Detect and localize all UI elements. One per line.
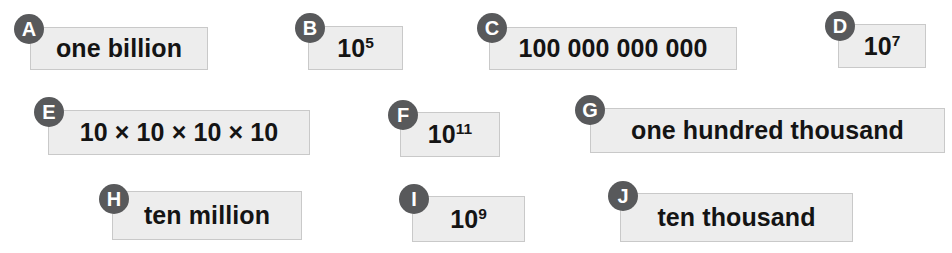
card-label-f: 1011 [428, 122, 473, 147]
card-badge-d: D [825, 11, 855, 41]
power-exponent: 7 [892, 31, 901, 48]
card-badge-g: G [575, 95, 605, 125]
card-label-i: 109 [450, 207, 487, 232]
card-badge-j: J [608, 181, 638, 211]
answer-card-e[interactable]: 10 × 10 × 10 × 10 [48, 110, 310, 155]
card-label-c: 100 000 000 000 [518, 36, 707, 61]
power-base: 10 [450, 205, 478, 233]
card-badge-h: H [99, 184, 129, 214]
worksheet-canvas: Aone billionB105C100 000 000 000D107E10 … [0, 0, 952, 253]
power-exponent: 5 [365, 33, 374, 50]
card-badge-c: C [477, 13, 507, 43]
power-exponent: 11 [456, 120, 473, 137]
answer-card-c[interactable]: 100 000 000 000 [489, 27, 737, 70]
card-badge-b: B [295, 13, 325, 43]
power-base: 10 [337, 34, 365, 62]
answer-card-a[interactable]: one billion [30, 27, 208, 70]
card-badge-a: A [14, 14, 44, 44]
card-label-e: 10 × 10 × 10 × 10 [80, 120, 278, 145]
answer-card-j[interactable]: ten thousand [620, 193, 853, 242]
power-base: 10 [428, 120, 456, 148]
card-label-a: one billion [56, 36, 182, 61]
answer-card-g[interactable]: one hundred thousand [590, 108, 945, 153]
card-label-d: 107 [864, 34, 901, 59]
card-label-g: one hundred thousand [631, 118, 904, 143]
power-exponent: 9 [478, 204, 487, 221]
answer-card-h[interactable]: ten million [112, 191, 302, 240]
card-label-j: ten thousand [657, 205, 815, 230]
card-badge-i: I [399, 184, 429, 214]
card-badge-f: F [388, 100, 418, 130]
card-label-h: ten million [144, 203, 270, 228]
card-badge-e: E [34, 97, 64, 127]
power-base: 10 [864, 32, 892, 60]
answer-card-i[interactable]: 109 [412, 196, 525, 242]
card-label-b: 105 [337, 36, 374, 61]
